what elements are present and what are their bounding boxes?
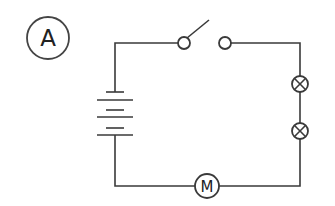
label-text: A	[40, 25, 56, 51]
lamp-icon	[292, 123, 308, 139]
diagram-label: A	[27, 17, 69, 59]
motor-label: M	[201, 178, 214, 196]
switch-icon	[178, 20, 231, 49]
lamp-icon	[292, 76, 308, 92]
wire-bottom-right	[219, 139, 300, 186]
switch-terminal-right	[219, 37, 231, 49]
wires	[115, 43, 300, 186]
motor-icon: M	[195, 174, 219, 198]
wire-top-right	[231, 43, 300, 76]
circuit-diagram: A M	[0, 0, 335, 206]
switch-terminal-left	[178, 37, 190, 49]
switch-lever	[187, 20, 209, 38]
battery-icon	[97, 92, 133, 135]
wire-bottom-left	[115, 135, 195, 186]
wire-top-left	[115, 43, 178, 92]
